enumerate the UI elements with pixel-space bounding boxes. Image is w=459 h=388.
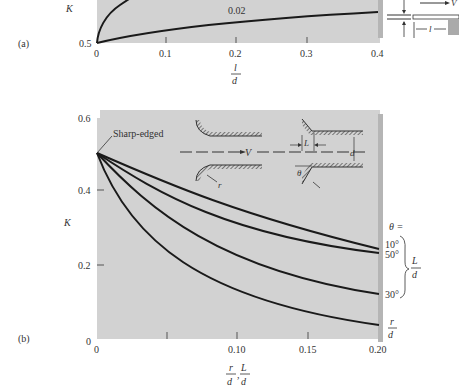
legend-50deg: 50° (385, 249, 399, 260)
sharp-edged-label: Sharp-edged (113, 128, 164, 139)
x-tick-a-1: 0.1 (159, 48, 172, 59)
x-tick-b-015: 0.15 (299, 344, 317, 355)
x-label-b-d2: d (241, 376, 247, 387)
y-tick-0: 0 (86, 336, 91, 347)
x-label-a-den: d (232, 75, 238, 86)
x-tick-a-4: 0.4 (371, 48, 384, 59)
x-tick-b-010: 0.10 (228, 344, 246, 355)
y-tick-02: 0.2 (78, 260, 91, 271)
y-tick-04: 0.4 (78, 185, 91, 196)
x-label-b-d1: d (227, 376, 233, 387)
x-tick-a-0: 0 (94, 48, 99, 59)
inset-a-V: V (451, 0, 458, 8)
legend-30deg: 30° (385, 289, 399, 300)
inset-r-label: r (218, 180, 222, 190)
inset-d-label: d (350, 148, 355, 158)
legend-brace (400, 236, 409, 298)
panel-a: 0.02 (a) K 0.5 0 0.1 0.2 0.3 0.4 l d V l (18, 0, 459, 86)
x-tick-a-3: 0.3 (300, 48, 313, 59)
x-tick-b-020: 0.20 (369, 344, 387, 355)
legend-r: r (390, 316, 394, 327)
inset-a-l: l (429, 24, 432, 34)
legend-d: d (412, 269, 418, 280)
legend-theta-eq: θ = (389, 221, 403, 232)
legend-d-r: d (388, 329, 394, 340)
x-label-b-r: r (229, 362, 233, 373)
legend-L: L (411, 255, 418, 266)
inset-L-label: L (303, 138, 309, 148)
y-axis-label-a: K (65, 3, 74, 14)
curve-label-002: 0.02 (228, 5, 246, 16)
y-tick-05: 0.5 (79, 38, 92, 49)
panel-label-a: (a) (18, 38, 29, 50)
x-label-b-comma: , (237, 369, 240, 380)
y-tick-06: 0.6 (78, 113, 91, 124)
inset-diagram-a: V l (387, 0, 459, 38)
y-axis-label-b: K (63, 217, 72, 228)
x-label-a-num: l (234, 62, 237, 73)
x-tick-a-2: 0.2 (229, 48, 242, 59)
x-tick-b-0: 0 (94, 344, 99, 355)
panel-label-b: (b) (18, 333, 30, 345)
inset-theta-label: θ (297, 168, 302, 178)
panel-b: Sharp-edged r V L d (18, 110, 421, 387)
figure: 0.02 (a) K 0.5 0 0.1 0.2 0.3 0.4 l d V l (0, 0, 459, 388)
x-label-b-L: L (240, 362, 247, 373)
